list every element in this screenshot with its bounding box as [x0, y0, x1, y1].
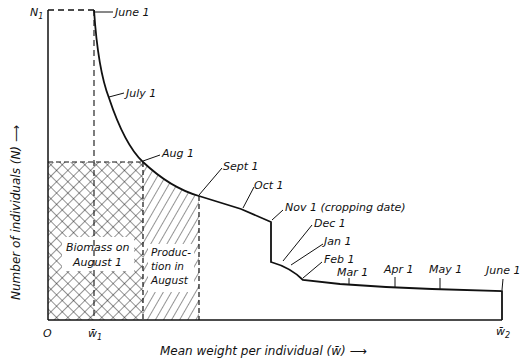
allen-curve-diagram: N1 June 1 July 1 Aug 1 Sept 1 Oct 1 Nov … — [0, 0, 531, 360]
production-region — [143, 162, 199, 320]
origin-label: O — [43, 327, 52, 340]
x-axis-title: Mean weight per individual (w̄) ⟶ — [160, 344, 367, 358]
production-label-line3: August — [150, 274, 189, 286]
label-oct-1: Oct 1 — [254, 179, 284, 192]
y-axis-title: Number of individuals (N) ⟶ — [9, 125, 23, 300]
x-tick-w1: w̄1 — [88, 327, 102, 342]
label-sept-1: Sept 1 — [223, 160, 259, 173]
label-june-1-end: June 1 — [484, 264, 520, 277]
label-mar-1: Mar 1 — [337, 266, 368, 279]
y-tick-n1: N1 — [30, 6, 43, 21]
label-jan-1: Jan 1 — [322, 235, 351, 248]
label-july-1: July 1 — [124, 87, 156, 100]
production-label-line1: Produc- — [151, 246, 191, 258]
label-june-1-start: June 1 — [113, 6, 149, 19]
label-nov-1-cropping: Nov 1 (cropping date) — [285, 201, 406, 214]
biomass-label-line1: Biomass on — [66, 241, 129, 254]
label-may-1: May 1 — [429, 263, 462, 276]
label-dec-1: Dec 1 — [314, 217, 346, 230]
production-label-line2: tion in — [151, 260, 184, 272]
x-tick-w2: w̄2 — [496, 325, 510, 340]
label-feb-1: Feb 1 — [324, 253, 355, 266]
biomass-label-line2: August 1 — [72, 256, 122, 269]
label-apr-1: Apr 1 — [383, 263, 414, 276]
label-aug-1: Aug 1 — [161, 147, 194, 160]
